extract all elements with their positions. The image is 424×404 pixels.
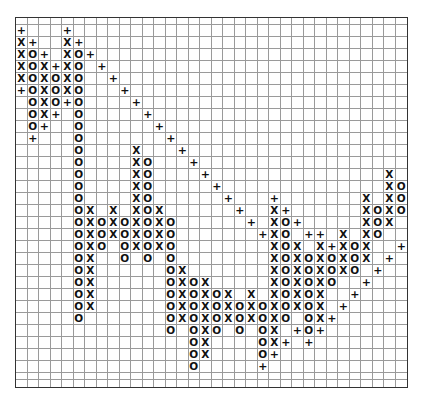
x-box: X	[62, 49, 74, 61]
grid-cell	[338, 25, 350, 37]
grid-cell	[235, 337, 247, 349]
o-box: O	[281, 289, 293, 301]
grid-cell	[327, 217, 339, 229]
grid-cell	[223, 229, 235, 241]
o-box: O	[258, 313, 270, 325]
grid-cell	[143, 133, 155, 145]
grid-cell	[269, 157, 281, 169]
x-box: X	[131, 193, 143, 205]
trendline-marker: +	[315, 229, 327, 241]
x-box: X	[200, 289, 212, 301]
grid-cell	[108, 121, 120, 133]
trendline-marker: +	[16, 85, 28, 97]
grid-cell	[51, 145, 63, 157]
grid-cell	[315, 97, 327, 109]
grid-cell	[327, 380, 339, 387]
x-box: X	[269, 229, 281, 241]
grid-cell	[108, 157, 120, 169]
grid-cell	[39, 193, 51, 205]
grid-cell	[327, 373, 339, 380]
grid-cell	[223, 49, 235, 61]
grid-cell	[327, 133, 339, 145]
x-box: X	[292, 253, 304, 265]
grid-cell	[235, 145, 247, 157]
grid-cell	[131, 325, 143, 337]
grid-cell	[292, 349, 304, 361]
grid-cell	[97, 205, 109, 217]
grid-cell	[120, 313, 132, 325]
grid-cell	[235, 380, 247, 387]
grid-cell	[304, 157, 316, 169]
grid-cell	[143, 289, 155, 301]
grid-cell	[338, 97, 350, 109]
grid-cell	[120, 121, 132, 133]
grid-cell	[235, 121, 247, 133]
x-box: X	[131, 181, 143, 193]
grid-cell	[143, 49, 155, 61]
grid-cell	[97, 145, 109, 157]
grid-cell	[384, 349, 396, 361]
grid-cell	[373, 121, 385, 133]
grid-cell	[212, 241, 224, 253]
grid-cell	[384, 301, 396, 313]
grid-cell	[338, 337, 350, 349]
grid-cell	[200, 217, 212, 229]
o-box: O	[74, 85, 86, 97]
grid-cell	[281, 61, 293, 73]
grid-cell	[258, 37, 270, 49]
grid-cell	[166, 97, 178, 109]
grid-cell	[97, 169, 109, 181]
grid-cell	[235, 181, 247, 193]
trendline-marker: +	[74, 37, 86, 49]
o-box: O	[373, 205, 385, 217]
o-box: O	[166, 301, 178, 313]
o-box: O	[189, 289, 201, 301]
grid-cell	[235, 217, 247, 229]
grid-cell	[315, 121, 327, 133]
grid-cell	[97, 97, 109, 109]
grid-cell	[143, 380, 155, 387]
grid-cell	[62, 380, 74, 387]
grid-cell	[304, 193, 316, 205]
grid-cell	[166, 181, 178, 193]
o-box: O	[51, 73, 63, 85]
grid-cell	[246, 253, 258, 265]
grid-cell	[327, 73, 339, 85]
grid-cell	[16, 337, 28, 349]
o-box: O	[212, 325, 224, 337]
grid-cell	[281, 49, 293, 61]
grid-cell	[373, 193, 385, 205]
grid-cell	[166, 157, 178, 169]
x-box: X	[85, 289, 97, 301]
o-box: O	[74, 97, 86, 109]
grid-cell	[154, 61, 166, 73]
grid-cell	[384, 373, 396, 380]
grid-cell	[338, 313, 350, 325]
grid-cell	[246, 337, 258, 349]
trendline-marker: +	[62, 97, 74, 109]
grid-cell	[85, 337, 97, 349]
grid-cell	[373, 85, 385, 97]
grid-cell	[373, 18, 385, 25]
grid-cell	[223, 109, 235, 121]
grid-cell	[51, 349, 63, 361]
grid-cell	[200, 133, 212, 145]
grid-cell	[97, 73, 109, 85]
grid-cell	[212, 277, 224, 289]
grid-cell	[292, 373, 304, 380]
grid-cell	[85, 349, 97, 361]
grid-cell	[108, 361, 120, 373]
grid-cell	[143, 18, 155, 25]
x-box: X	[16, 49, 28, 61]
o-box: O	[97, 229, 109, 241]
grid-cell	[189, 85, 201, 97]
grid-cell	[212, 265, 224, 277]
trendline-marker: +	[258, 361, 270, 373]
o-box: O	[74, 61, 86, 73]
grid-cell	[39, 133, 51, 145]
grid-cell	[51, 337, 63, 349]
x-box: X	[131, 217, 143, 229]
grid-cell	[384, 109, 396, 121]
grid-cell	[212, 133, 224, 145]
o-box: O	[166, 241, 178, 253]
